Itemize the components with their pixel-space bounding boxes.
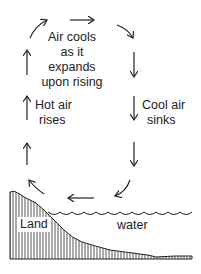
arrow-curve-bottom-right-icon xyxy=(115,180,130,196)
arrow-curve-top-right-icon xyxy=(117,25,133,38)
arrow-curve-bottom-left-icon xyxy=(29,180,44,194)
label-land: Land xyxy=(18,217,50,232)
water-surface xyxy=(48,212,192,215)
label-hot-air-rises: Hot air rises xyxy=(35,98,85,128)
label-air-cools-line3: upon rising xyxy=(37,75,107,90)
label-air-cools-line1: Air cools xyxy=(37,30,107,45)
label-cool-air-sinks: Cool air sinks xyxy=(142,98,197,128)
label-cool-air-line2: sinks xyxy=(142,113,197,128)
label-air-cools: Air cools as it expands upon rising xyxy=(37,30,107,90)
label-air-cools-line2: as it expands xyxy=(37,45,107,75)
label-water: water xyxy=(117,218,148,233)
label-hot-air-line2: rises xyxy=(35,113,85,128)
label-hot-air-line1: Hot air xyxy=(35,98,85,113)
label-cool-air-line1: Cool air xyxy=(142,98,197,113)
